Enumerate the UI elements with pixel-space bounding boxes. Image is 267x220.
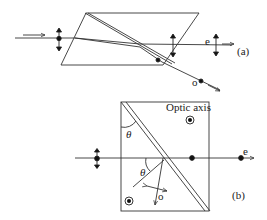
panel-a-label: (a) bbox=[237, 45, 250, 58]
polarizing-prism-diagram: e (a) o Optic axis θ θ o e (b) bbox=[0, 0, 267, 220]
panel-b bbox=[75, 102, 254, 211]
e-label-a: e bbox=[205, 35, 210, 47]
o-ray-a bbox=[75, 38, 220, 90]
prism-b-interface-2 bbox=[126, 102, 210, 211]
o-out-dot-icon bbox=[199, 79, 203, 83]
optic-axis-marker-bottom-icon bbox=[125, 197, 133, 205]
panel-b-label: (b) bbox=[232, 189, 245, 202]
theta-label-mid: θ bbox=[140, 166, 146, 178]
o-dot-icon bbox=[156, 58, 160, 62]
optic-axis-label: Optic axis bbox=[166, 101, 211, 113]
o-label-b: o bbox=[158, 190, 164, 202]
e-label-b: e bbox=[243, 145, 248, 157]
theta-arc-mid bbox=[146, 158, 150, 171]
o-arrow-a bbox=[208, 85, 220, 91]
theta-arc-top bbox=[121, 121, 136, 127]
incident-dot-b-icon bbox=[95, 156, 100, 161]
o-polarization-b bbox=[147, 186, 167, 191]
optic-axis-marker-top-icon bbox=[186, 116, 194, 124]
o-label-a: o bbox=[192, 76, 198, 88]
e-dot-inside-icon bbox=[190, 156, 195, 161]
theta-label-top: θ bbox=[126, 128, 132, 140]
normal-line-b bbox=[133, 160, 164, 187]
prism-a-interface-2 bbox=[88, 13, 175, 63]
prism-b-outline bbox=[121, 102, 209, 211]
polarization-dot-icon bbox=[57, 36, 61, 40]
prism-a-interface-1 bbox=[85, 13, 172, 64]
